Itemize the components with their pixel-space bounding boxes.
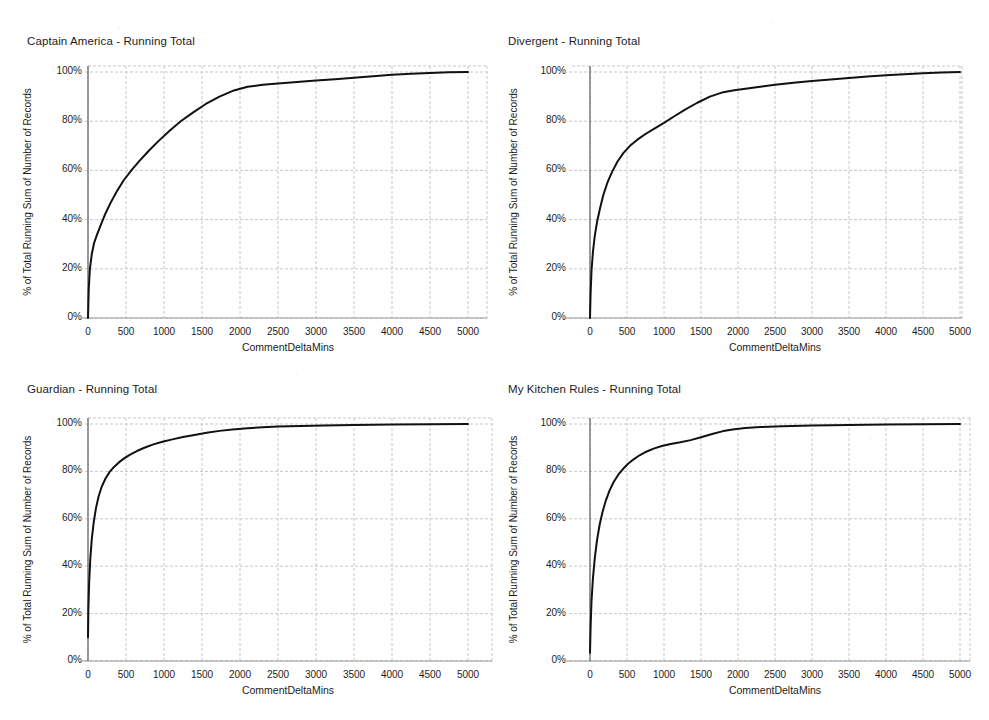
y-tick-label: 60% (510, 512, 566, 523)
y-tick-label: 100% (510, 417, 566, 428)
y-tick-label: 80% (510, 464, 566, 475)
x-tick-label: 5000 (935, 669, 985, 680)
plot-area-my-kitchen-rules (0, 0, 989, 720)
chart-title-my-kitchen-rules: My Kitchen Rules - Running Total (508, 383, 681, 395)
chart-panel-my-kitchen-rules: My Kitchen Rules - Running Total% of Tot… (0, 0, 989, 720)
y-tick-label: 0% (510, 654, 566, 665)
data-line-my-kitchen-rules (590, 424, 960, 653)
y-tick-label: 40% (510, 559, 566, 570)
y-tick-label: 20% (510, 607, 566, 618)
y-axis-label-my-kitchen-rules: % of Total Running Sum of Number of Reco… (508, 418, 519, 661)
chart-grid: Captain America - Running Total% of Tota… (0, 0, 989, 720)
x-axis-label-my-kitchen-rules: CommentDeltaMins (695, 684, 855, 696)
